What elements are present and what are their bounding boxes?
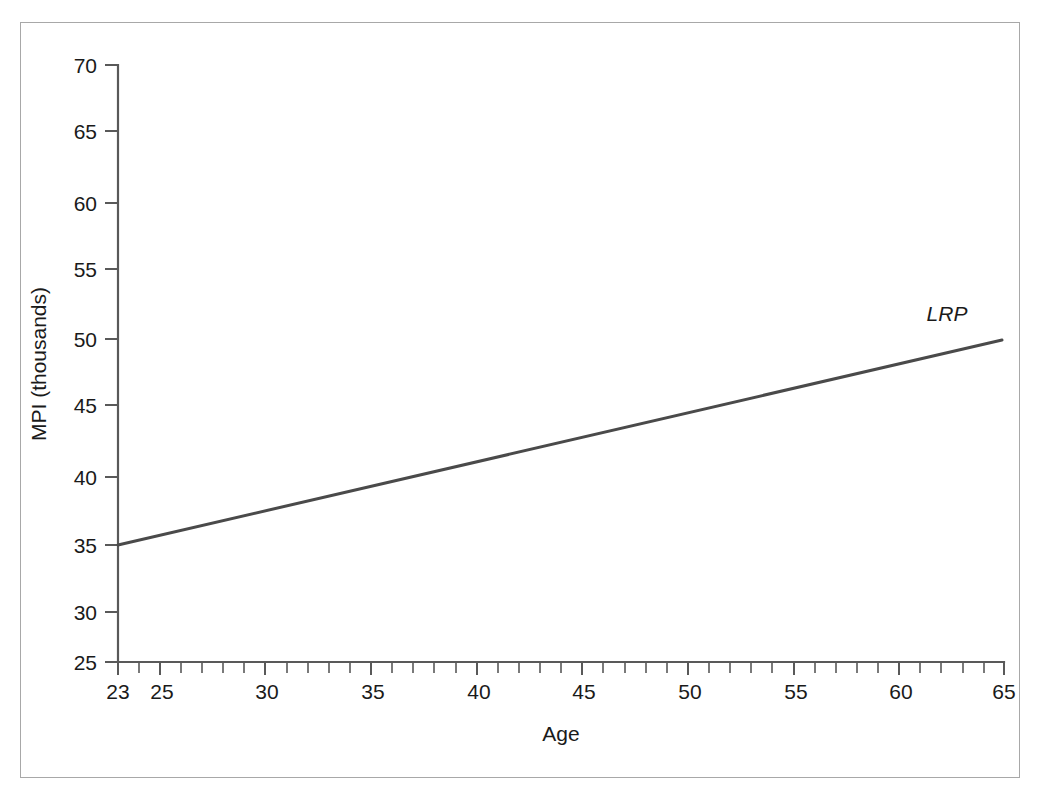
x-tick-label-50: 50 — [678, 680, 701, 703]
x-tick-label-60: 60 — [889, 680, 912, 703]
y-tick-label-60: 60 — [74, 192, 97, 215]
y-tick-label-30: 30 — [74, 601, 97, 624]
x-tick-label-65: 65 — [992, 680, 1015, 703]
series-lrp: LRP — [118, 302, 1002, 545]
y-tick-label-65: 65 — [74, 120, 97, 143]
figure-page: 70 65 60 55 50 45 40 35 30 25 — [0, 0, 1038, 796]
y-tick-label-40: 40 — [74, 466, 97, 489]
y-tick-label-35: 35 — [74, 534, 97, 557]
x-axis-title: Age — [542, 722, 579, 745]
y-tick-label-50: 50 — [74, 328, 97, 351]
x-tick-label-55: 55 — [784, 680, 807, 703]
x-tick-label-35: 35 — [361, 680, 384, 703]
y-tick-label-70: 70 — [74, 54, 97, 77]
axis-lines — [118, 65, 1004, 662]
x-tick-label-23: 23 — [106, 680, 129, 703]
lrp-series-label: LRP — [927, 302, 968, 325]
lrp-line — [118, 340, 1002, 545]
x-tick-label-45: 45 — [572, 680, 595, 703]
x-tick-label-25: 25 — [150, 680, 173, 703]
x-tick-label-40: 40 — [467, 680, 490, 703]
y-axis-title: MPI (thousands) — [27, 287, 50, 441]
y-tick-label-25: 25 — [74, 651, 97, 674]
y-axis-ticks: 70 65 60 55 50 45 40 35 30 25 — [74, 54, 118, 674]
y-tick-label-55: 55 — [74, 258, 97, 281]
y-tick-label-45: 45 — [74, 394, 97, 417]
line-chart: 70 65 60 55 50 45 40 35 30 25 — [0, 0, 1038, 796]
x-tick-label-30: 30 — [255, 680, 278, 703]
